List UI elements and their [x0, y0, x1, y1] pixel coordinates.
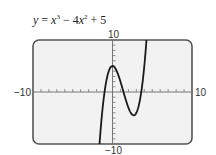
x-max-label: 10 [195, 87, 207, 98]
y-min-label: −10 [105, 145, 122, 155]
y-max-label: 10 [108, 29, 120, 40]
graph-window: −10 10 10 −10 [0, 0, 216, 155]
x-min-label: −10 [14, 87, 31, 98]
